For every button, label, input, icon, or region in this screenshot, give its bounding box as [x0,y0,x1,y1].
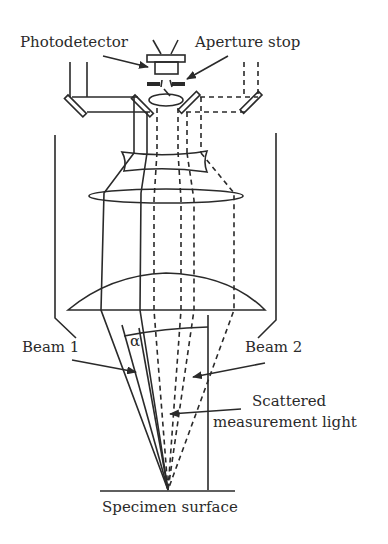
objective-housing [55,133,276,338]
photodetector-arrow [103,56,148,67]
concave-lens [122,151,207,172]
aperture-stop-label: Aperture stop [194,33,300,51]
beam2-mirrors [157,62,262,153]
scattered-label-1: Scattered [252,392,327,410]
collector-lens [149,94,183,106]
middle-lens [89,189,243,203]
beam1-arrow [72,360,136,372]
scattered-label-2: measurement light [213,413,357,431]
beam1-label: Beam 1 [22,338,79,356]
objective-lens [68,273,265,310]
beam2-arrow [193,363,265,377]
photodetector-label: Photodetector [20,33,129,51]
beam1-mirrors [64,62,153,153]
specimen-label: Specimen surface [102,498,238,516]
aperture-stop [147,80,185,87]
photodetector [147,40,185,74]
beam2-label: Beam 2 [245,338,302,356]
optical-diagram: Photodetector Aperture stop Beam 1 Beam … [0,0,388,544]
aperture-arrow [187,56,228,79]
